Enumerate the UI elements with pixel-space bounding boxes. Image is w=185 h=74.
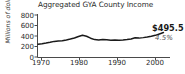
income-line-series bbox=[38, 33, 163, 45]
chart-figure: Aggregated GYA County Income Millions of… bbox=[0, 0, 185, 74]
endpoint-change-label: 4.5% bbox=[155, 34, 185, 43]
endpoint-value-label: $495.5 bbox=[152, 24, 185, 33]
endpoint-annotation: $495.5 4.5% bbox=[152, 24, 185, 43]
